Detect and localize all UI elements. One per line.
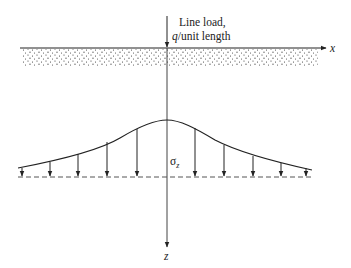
stress-arrows [22,128,306,176]
stress-label: σz [170,155,179,172]
soil-layer [22,49,318,66]
sigma-subscript: z [176,161,179,170]
stress-curve [18,120,312,170]
load-label-unit: /unit length [178,30,231,42]
load-label-line2: q/unit length [172,30,230,43]
load-label-line1: Line load, [179,16,226,29]
z-axis-label: z [164,250,168,263]
x-axis-label: x [330,42,335,55]
